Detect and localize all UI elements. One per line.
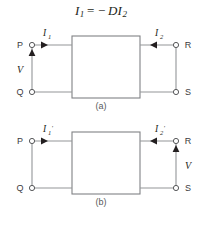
current-arrow-right-b <box>150 137 157 144</box>
voltage-arrow-a <box>29 49 36 56</box>
voltage-label-a: V <box>17 64 25 75</box>
network-box-b <box>72 132 140 194</box>
caption-b: (b) <box>0 197 202 207</box>
terminal-label-s-b: S <box>185 183 191 193</box>
current-label-left-b: I <box>42 124 47 134</box>
current-sub-right-a: 2 <box>160 33 164 40</box>
caption-a: (a) <box>0 101 202 111</box>
equation-operator: = − <box>87 3 106 18</box>
terminal-s-a <box>173 89 178 94</box>
current-arrow-right-a <box>150 41 157 48</box>
current-prime-right-b: ′ <box>164 124 166 131</box>
terminal-s-b <box>173 185 178 190</box>
terminal-q-a <box>29 89 34 94</box>
terminal-label-r-a: R <box>185 40 192 50</box>
current-prime-left-b: ′ <box>52 124 54 131</box>
terminal-label-p-a: P <box>17 40 23 50</box>
terminal-r-b <box>173 138 178 143</box>
current-label-right-a: I <box>154 28 159 38</box>
terminal-label-q-b: Q <box>16 183 23 193</box>
current-arrow-left-b <box>41 137 48 144</box>
terminal-q-b <box>29 185 34 190</box>
terminal-label-q-a: Q <box>16 87 23 97</box>
equation-coefficient: D <box>108 3 118 18</box>
figure-b: P Q R S I 1 ′ I 2 ′ V (b) <box>0 124 202 216</box>
equation-lhs-subscript: 1 <box>80 9 85 19</box>
terminal-p-a <box>29 42 34 47</box>
equation-rhs-subscript: 2 <box>122 9 127 19</box>
figure-a: P Q R S I 1 I 2 V (a) <box>0 28 202 120</box>
terminal-label-s-a: S <box>185 87 191 97</box>
current-arrow-left-a <box>41 41 48 48</box>
network-box-a <box>72 36 140 98</box>
current-label-right-b: I <box>154 124 159 134</box>
figure-page: I1= −DI2 P Q R S <box>0 0 202 227</box>
equation-i1-equals-minus-d-i2: I1= −DI2 <box>0 3 202 19</box>
voltage-label-b: V <box>185 160 193 171</box>
voltage-arrow-b <box>173 145 180 152</box>
terminal-r-a <box>173 42 178 47</box>
current-label-left-a: I <box>42 28 47 38</box>
equation-lhs-symbol: I <box>75 3 80 18</box>
terminal-label-r-b: R <box>185 136 192 146</box>
terminal-label-p-b: P <box>17 136 23 146</box>
terminal-p-b <box>29 138 34 143</box>
current-sub-left-a: 1 <box>48 33 51 40</box>
